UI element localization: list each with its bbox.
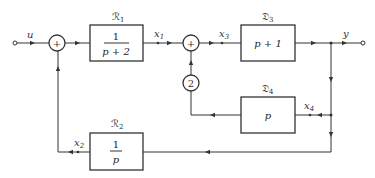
signal-x1: x1 [154, 28, 164, 41]
block-r2-name: ℛ2 [111, 118, 123, 131]
svg-text:p + 2: p + 2 [102, 46, 130, 57]
input-terminal [13, 41, 17, 45]
svg-text:+: + [187, 38, 195, 49]
svg-text:1: 1 [113, 31, 119, 42]
signal-x2: x2 [74, 137, 85, 150]
block-r2: 1 p [90, 133, 143, 170]
output-label-y: y [342, 28, 349, 39]
svg-text:p + 1: p + 1 [254, 38, 282, 49]
signal-x4: x4 [304, 100, 314, 113]
input-label-u: u [27, 29, 33, 40]
svg-text:+: + [53, 38, 61, 49]
block-r1: 1 p + 2 [90, 25, 143, 61]
summing-junction-1: + [49, 35, 65, 51]
svg-text:p: p [113, 154, 120, 165]
svg-text:1: 1 [113, 139, 119, 150]
svg-text:2: 2 [188, 78, 194, 89]
summing-junction-2: + [183, 35, 199, 51]
block-d4-name: 𝔇4 [262, 83, 274, 96]
block-d4: p [241, 97, 295, 133]
block-diagram: u + 1 p + 2 ℛ1 x1 + x3 p + 1 𝔇3 y [0, 0, 375, 178]
svg-text:p: p [265, 110, 272, 121]
block-r1-name: ℛ1 [112, 11, 124, 24]
gain-block: 2 [183, 75, 199, 91]
output-terminal [361, 41, 365, 45]
signal-x3: x3 [219, 28, 230, 41]
block-d3: p + 1 [241, 25, 295, 61]
block-d3-name: 𝔇3 [262, 11, 273, 24]
